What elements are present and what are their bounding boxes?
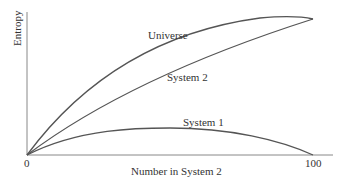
system1-label: System 1 [183, 116, 224, 128]
x-tick-0: 0 [24, 157, 30, 169]
system1-curve [27, 128, 313, 155]
system2-label: System 2 [167, 71, 208, 83]
x-tick-100: 100 [305, 157, 322, 169]
y-axis-label: Entropy [11, 10, 23, 46]
entropy-chart: Entropy 0 100 Number in System 2 Univers… [0, 0, 345, 188]
x-axis-label: Number in System 2 [131, 165, 222, 177]
universe-label: Universe [148, 29, 188, 41]
